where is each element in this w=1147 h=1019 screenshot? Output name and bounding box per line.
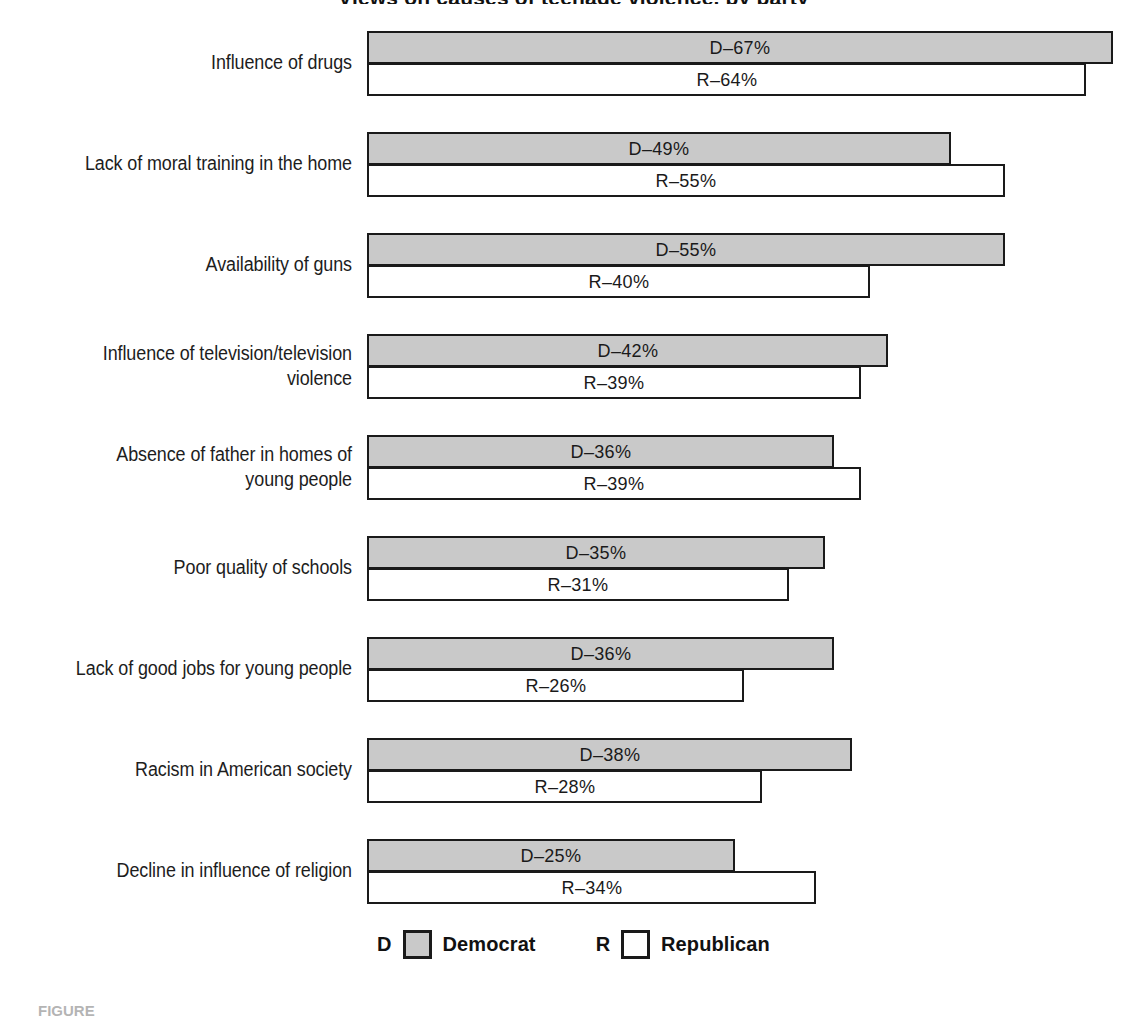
bar-value-label: D–42% [597, 340, 658, 362]
chart-row: Poor quality of schoolsD–35%R–31% [0, 536, 1147, 602]
bar-value-label: R–26% [525, 675, 586, 697]
democrat-bar: D–67% [367, 31, 1113, 64]
democrat-bar: D–35% [367, 536, 825, 569]
chart-row: Absence of father in homes ofyoung peopl… [0, 435, 1147, 501]
bar-value-label: R–31% [548, 574, 609, 596]
bar-value-label: R–55% [656, 170, 717, 192]
bar-value-label: D–38% [579, 744, 640, 766]
chart-legend: DDemocratRRepublican [0, 930, 1147, 959]
bar-value-label: D–25% [521, 845, 582, 867]
category-label-line: Poor quality of schools [39, 555, 352, 580]
category-label-line: Lack of good jobs for young people [39, 656, 352, 681]
bar-value-label: D–36% [570, 643, 631, 665]
legend-swatch-icon [403, 930, 432, 959]
democrat-bar: D–25% [367, 839, 735, 872]
category-label: Lack of good jobs for young people [39, 656, 352, 681]
legend-item-dem: DDemocrat [377, 930, 536, 959]
republican-bar: R–31% [367, 568, 789, 601]
democrat-bar: D–36% [367, 435, 834, 468]
legend-label: Republican [661, 933, 770, 956]
bar-value-label: R–64% [696, 69, 757, 91]
legend-label: Democrat [443, 933, 536, 956]
chart-row: Racism in American societyD–38%R–28% [0, 738, 1147, 804]
bar-chart-plot-area: Influence of drugsD–67%R–64%Lack of mora… [0, 0, 1147, 920]
category-label-line: young people [39, 467, 352, 492]
chart-row: Lack of good jobs for young peopleD–36%R… [0, 637, 1147, 703]
legend-item-rep: RRepublican [596, 930, 770, 959]
republican-bar: R–34% [367, 871, 816, 904]
democrat-bar: D–49% [367, 132, 951, 165]
bar-value-label: R–34% [561, 877, 622, 899]
category-label-line: Availability of guns [39, 252, 352, 277]
category-label: Availability of guns [39, 252, 352, 277]
bar-value-label: D–49% [629, 138, 690, 160]
legend-key: D [377, 933, 391, 956]
category-label-line: Influence of television/television [39, 341, 352, 366]
republican-bar: R–39% [367, 467, 861, 500]
republican-bar: R–55% [367, 164, 1005, 197]
democrat-bar: D–36% [367, 637, 834, 670]
democrat-bar: D–55% [367, 233, 1005, 266]
bar-value-label: R–28% [534, 776, 595, 798]
category-label: Lack of moral training in the home [39, 151, 352, 176]
category-label-line: Racism in American society [39, 757, 352, 782]
chart-row: Lack of moral training in the homeD–49%R… [0, 132, 1147, 198]
bar-value-label: D–55% [656, 239, 717, 261]
republican-bar: R–26% [367, 669, 744, 702]
bar-value-label: D–36% [570, 441, 631, 463]
figure-caption: FIGURE [38, 1002, 95, 1019]
bar-value-label: R–40% [588, 271, 649, 293]
category-label-line: Lack of moral training in the home [39, 151, 352, 176]
category-label-line: Absence of father in homes of [39, 442, 352, 467]
category-label: Influence of television/televisionviolen… [39, 341, 352, 391]
bar-value-label: D–35% [566, 542, 627, 564]
category-label: Decline in influence of religion [39, 858, 352, 883]
category-label: Racism in American society [39, 757, 352, 782]
category-label-line: Influence of drugs [39, 50, 352, 75]
bar-value-label: R–39% [584, 473, 645, 495]
republican-bar: R–39% [367, 366, 861, 399]
legend-swatch-icon [621, 930, 650, 959]
chart-row: Availability of gunsD–55%R–40% [0, 233, 1147, 299]
democrat-bar: D–42% [367, 334, 888, 367]
category-label-line: Decline in influence of religion [39, 858, 352, 883]
chart-row: Influence of television/televisionviolen… [0, 334, 1147, 400]
category-label: Influence of drugs [39, 50, 352, 75]
republican-bar: R–28% [367, 770, 762, 803]
category-label: Poor quality of schools [39, 555, 352, 580]
legend-key: R [596, 933, 610, 956]
republican-bar: R–40% [367, 265, 870, 298]
democrat-bar: D–38% [367, 738, 852, 771]
bar-value-label: D–67% [710, 37, 771, 59]
category-label: Absence of father in homes ofyoung peopl… [39, 442, 352, 492]
category-label-line: violence [39, 366, 352, 391]
chart-row: Decline in influence of religionD–25%R–3… [0, 839, 1147, 905]
bar-value-label: R–39% [584, 372, 645, 394]
chart-row: Influence of drugsD–67%R–64% [0, 31, 1147, 97]
republican-bar: R–64% [367, 63, 1086, 96]
